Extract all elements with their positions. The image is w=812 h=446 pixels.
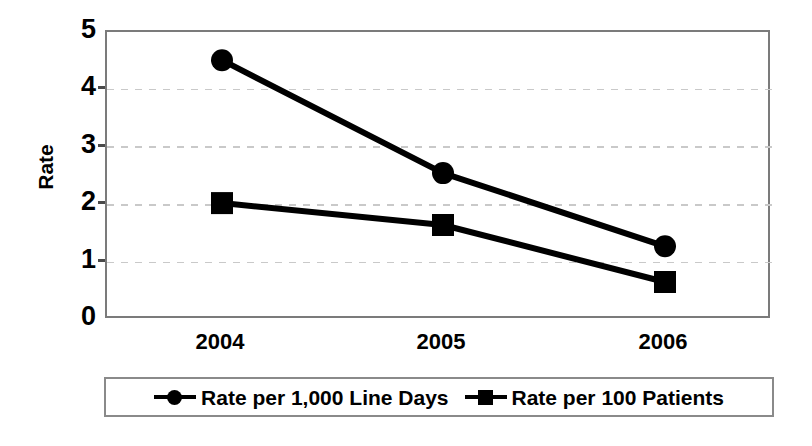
legend-item-rate-per-100-patients: Rate per 100 Patients — [465, 386, 724, 408]
data-point-marker — [432, 162, 454, 184]
y-tick-label-3: 3 — [62, 131, 96, 158]
data-point-marker — [654, 271, 676, 293]
data-point-marker — [211, 49, 233, 71]
x-tick-label-2004: 2004 — [160, 331, 280, 353]
y-tick-label-2: 2 — [62, 188, 96, 215]
circle-marker-icon — [154, 386, 196, 408]
x-tick-label-2005: 2005 — [381, 331, 501, 353]
series-rate-per-100-patients — [211, 192, 676, 293]
chart-legend: Rate per 1,000 Line Days Rate per 100 Pa… — [104, 377, 774, 417]
data-point-marker — [211, 192, 233, 214]
y-axis-title: Rate — [34, 117, 58, 217]
data-point-marker — [654, 235, 676, 257]
legend-label-rate-per-100-patients: Rate per 100 Patients — [512, 387, 724, 408]
data-point-marker — [432, 214, 454, 236]
legend-label-rate-per-1000-line-days: Rate per 1,000 Line Days — [201, 387, 448, 408]
y-tick-label-4: 4 — [62, 73, 96, 100]
plot-canvas — [107, 32, 772, 320]
legend-item-rate-per-1000-line-days: Rate per 1,000 Line Days — [154, 386, 448, 408]
x-tick-label-2006: 2006 — [603, 331, 723, 353]
y-tick-label-1: 1 — [62, 246, 96, 273]
line-chart: Rate 5 4 3 2 1 0 — [0, 0, 812, 446]
y-tick-label-0: 0 — [62, 303, 96, 330]
square-marker-icon — [465, 386, 507, 408]
y-tick-label-5: 5 — [62, 16, 96, 43]
plot-area — [105, 30, 770, 318]
